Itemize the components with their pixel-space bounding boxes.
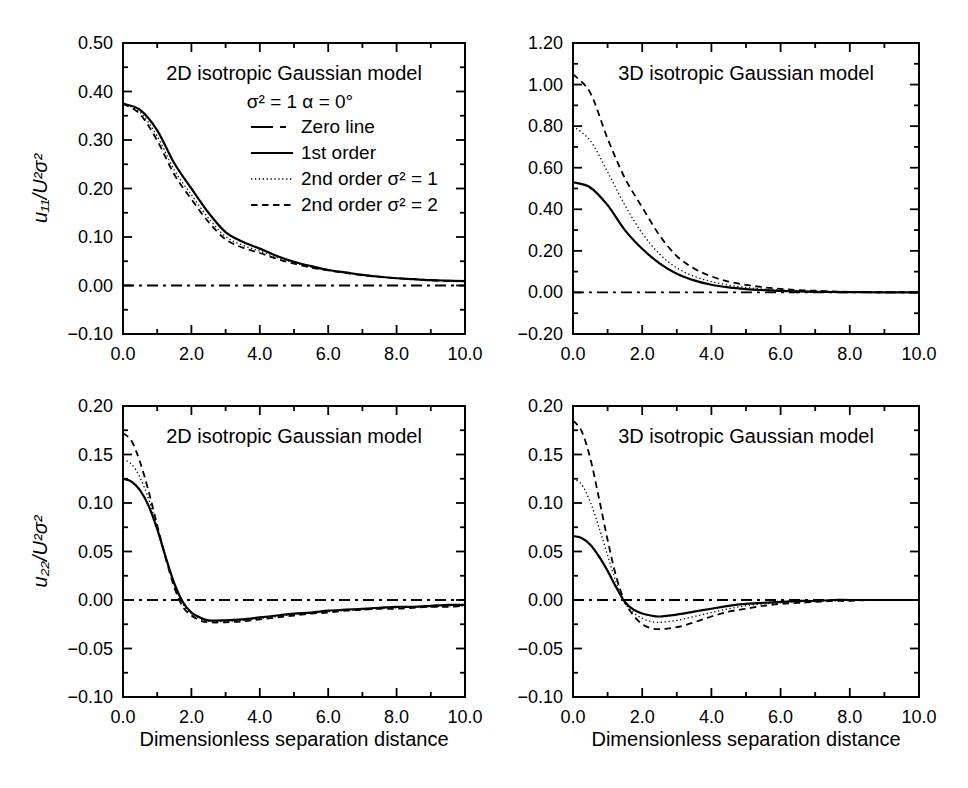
series-second-order-s1 xyxy=(123,104,465,282)
y-tick-label: 0.80 xyxy=(528,116,563,136)
y-tick-label: 0.30 xyxy=(78,130,113,150)
y-tick-label: 0.20 xyxy=(528,241,563,261)
y-tick-label: 0.00 xyxy=(78,590,113,610)
legend-label: 2nd order σ² = 2 xyxy=(301,194,438,215)
y-tick-label: −0.05 xyxy=(517,639,563,659)
legend-header: σ² = 1 α = 0° xyxy=(247,91,353,112)
y-tick-label: −0.10 xyxy=(67,687,113,707)
y-tick-label: −0.10 xyxy=(517,687,563,707)
x-tick-label: 10.0 xyxy=(447,707,482,727)
y-tick-label: 0.10 xyxy=(528,493,563,513)
y-tick-label: 1.00 xyxy=(528,75,563,95)
x-axis-label: Dimensionless separation distance xyxy=(591,728,900,750)
axis-ticks xyxy=(573,43,919,334)
x-tick-label: 6.0 xyxy=(768,344,793,364)
y-axis-label: u₂₂/U²σ² xyxy=(29,514,51,587)
y-tick-label: 0.00 xyxy=(528,590,563,610)
axis-ticks xyxy=(573,406,919,697)
x-tick-label: 2.0 xyxy=(179,707,204,727)
panel-u22-3d: 0.02.04.06.08.010.00.200.150.100.050.00−… xyxy=(517,396,936,750)
x-tick-label: 2.0 xyxy=(630,344,655,364)
panel-title: 3D isotropic Gaussian model xyxy=(618,425,874,447)
y-tick-label: −0.20 xyxy=(517,324,563,344)
panel-title: 3D isotropic Gaussian model xyxy=(618,62,874,84)
y-tick-label: 0.00 xyxy=(78,276,113,296)
y-tick-label: −0.05 xyxy=(67,639,113,659)
series-first-order xyxy=(123,104,465,282)
figure-svg: 0.02.04.06.08.010.00.500.400.300.200.100… xyxy=(0,0,968,788)
y-tick-label: 0.10 xyxy=(78,493,113,513)
series-first-order xyxy=(573,536,919,617)
x-tick-label: 10.0 xyxy=(901,707,936,727)
y-tick-label: 0.15 xyxy=(528,445,563,465)
series-second-order-s2 xyxy=(123,433,465,622)
y-tick-label: 0.50 xyxy=(78,33,113,53)
x-tick-label: 8.0 xyxy=(837,707,862,727)
y-tick-label: 0.20 xyxy=(78,396,113,416)
series-second-order-s2 xyxy=(123,104,465,282)
plot-border xyxy=(573,43,919,334)
y-tick-label: 1.20 xyxy=(528,33,563,53)
y-tick-label: −0.10 xyxy=(67,324,113,344)
legend-label: Zero line xyxy=(301,116,375,137)
x-tick-label: 0.0 xyxy=(110,707,135,727)
plot-border xyxy=(573,406,919,697)
series-second-order-s2 xyxy=(573,421,919,630)
x-tick-label: 6.0 xyxy=(316,344,341,364)
legend-label: 2nd order σ² = 1 xyxy=(301,168,438,189)
panel-u11-2d: 0.02.04.06.08.010.00.500.400.300.200.100… xyxy=(29,33,483,364)
x-tick-label: 8.0 xyxy=(837,344,862,364)
x-tick-label: 6.0 xyxy=(316,707,341,727)
x-tick-label: 0.0 xyxy=(560,707,585,727)
figure: 0.02.04.06.08.010.00.500.400.300.200.100… xyxy=(0,0,968,788)
x-tick-label: 8.0 xyxy=(384,707,409,727)
x-tick-label: 10.0 xyxy=(447,344,482,364)
y-axis-label: u₁₁/U²σ² xyxy=(29,153,51,223)
x-tick-label: 2.0 xyxy=(179,344,204,364)
panel-u22-2d: 0.02.04.06.08.010.00.200.150.100.050.00−… xyxy=(29,396,483,750)
axis-ticks xyxy=(123,406,465,697)
x-tick-label: 2.0 xyxy=(630,707,655,727)
panel-title: 2D isotropic Gaussian model xyxy=(166,62,422,84)
series-second-order-s1 xyxy=(123,459,465,621)
series-first-order xyxy=(573,182,919,292)
series-second-order-s2 xyxy=(573,74,919,292)
x-axis-label: Dimensionless separation distance xyxy=(139,728,448,750)
x-tick-label: 10.0 xyxy=(901,344,936,364)
x-tick-label: 0.0 xyxy=(110,344,135,364)
x-tick-label: 4.0 xyxy=(699,707,724,727)
series-second-order-s1 xyxy=(573,126,919,292)
x-tick-label: 4.0 xyxy=(699,344,724,364)
panel-u11-3d: 0.02.04.06.08.010.01.201.000.800.600.400… xyxy=(517,33,936,364)
x-tick-label: 8.0 xyxy=(384,344,409,364)
x-tick-label: 4.0 xyxy=(247,707,272,727)
y-tick-label: 0.05 xyxy=(78,542,113,562)
plot-border xyxy=(123,406,465,697)
y-tick-label: 0.10 xyxy=(78,227,113,247)
y-tick-label: 0.00 xyxy=(528,282,563,302)
panel-title: 2D isotropic Gaussian model xyxy=(166,425,422,447)
x-tick-label: 6.0 xyxy=(768,707,793,727)
y-tick-label: 0.60 xyxy=(528,158,563,178)
y-tick-label: 0.15 xyxy=(78,445,113,465)
legend-label: 1st order xyxy=(301,142,377,163)
y-tick-label: 0.05 xyxy=(528,542,563,562)
legend: σ² = 1 α = 0°Zero line1st order2nd order… xyxy=(247,91,438,215)
x-tick-label: 4.0 xyxy=(247,344,272,364)
y-tick-label: 0.20 xyxy=(78,179,113,199)
y-tick-label: 0.40 xyxy=(78,82,113,102)
x-tick-label: 0.0 xyxy=(560,344,585,364)
y-tick-label: 0.20 xyxy=(528,396,563,416)
y-tick-label: 0.40 xyxy=(528,199,563,219)
